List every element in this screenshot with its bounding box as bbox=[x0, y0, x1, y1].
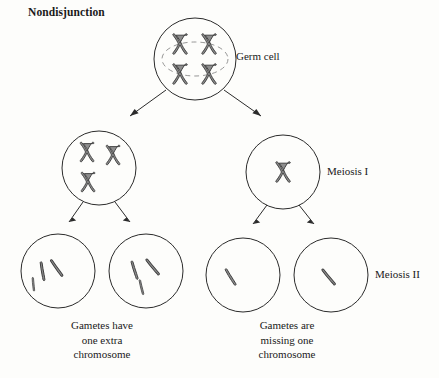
arrow-meiosis-i-right-to-gamete-3 bbox=[253, 205, 267, 224]
gamete-1 bbox=[21, 234, 95, 308]
arrow-meiosis-i-left-to-gamete-1 bbox=[69, 202, 83, 222]
germ-cell bbox=[154, 18, 236, 100]
gamete-2 bbox=[109, 234, 183, 308]
meiosis-i-cell-right bbox=[246, 135, 320, 209]
gamete-4 bbox=[294, 238, 368, 312]
arrow-germ-to-meiosis-i-left bbox=[130, 90, 166, 116]
caption-left: Gametes have one extra chromosome bbox=[32, 318, 172, 362]
label-meiosis-i: Meiosis I bbox=[327, 165, 368, 177]
caption-right: Gametes are missing one chromosome bbox=[217, 318, 357, 362]
label-meiosis-ii: Meiosis II bbox=[375, 268, 420, 280]
caption-right-line-1: Gametes are bbox=[217, 318, 357, 333]
gamete-3 bbox=[206, 238, 280, 312]
caption-right-line-2: missing one bbox=[217, 333, 357, 348]
arrow-germ-to-meiosis-i-right bbox=[224, 90, 261, 116]
caption-right-line-3: chromosome bbox=[217, 347, 357, 362]
caption-left-line-3: chromosome bbox=[32, 347, 172, 362]
label-germ-cell: Germ cell bbox=[236, 50, 280, 62]
caption-left-line-1: Gametes have bbox=[32, 318, 172, 333]
caption-left-line-2: one extra bbox=[32, 333, 172, 348]
nondisjunction-diagram: Nondisjunction bbox=[0, 0, 439, 378]
arrow-meiosis-i-right-to-gamete-4 bbox=[299, 205, 314, 224]
meiosis-i-cell-left bbox=[62, 131, 136, 205]
arrow-meiosis-i-left-to-gamete-2 bbox=[115, 202, 130, 222]
